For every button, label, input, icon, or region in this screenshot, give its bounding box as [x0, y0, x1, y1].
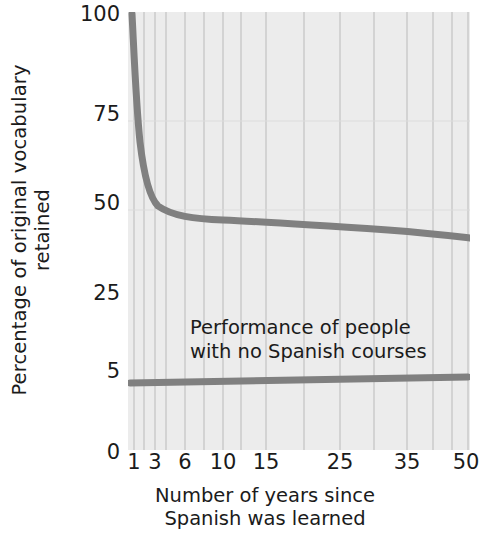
- y-tick-75: 75: [66, 104, 120, 125]
- y-tick-25: 25: [66, 283, 120, 304]
- plot-annotation-line1: Performance of people: [190, 316, 427, 340]
- x-tick-25: 25: [327, 452, 354, 473]
- x-tick-10: 10: [210, 452, 237, 473]
- x-tick-50: 50: [453, 452, 480, 473]
- y-tick-50: 50: [66, 193, 120, 214]
- y-axis-title-line1: Percentage of original vocabulary: [8, 64, 31, 395]
- y-tick-0: 0: [66, 442, 120, 463]
- y-axis-title-line2: retained: [31, 64, 54, 395]
- plot-annotation-line2: with no Spanish courses: [190, 340, 427, 364]
- x-tick-15: 15: [253, 452, 280, 473]
- y-axis-tick-labels: 100 75 50 25 5 0: [62, 0, 120, 549]
- plot-area: [128, 12, 470, 450]
- plot-annotation: Performance of people with no Spanish co…: [190, 316, 427, 364]
- y-tick-5: 5: [66, 361, 120, 382]
- x-axis-title-line1: Number of years since: [100, 484, 430, 507]
- plot-svg: [128, 12, 470, 450]
- chart-figure: Percentage of original vocabulary retain…: [0, 0, 486, 549]
- x-tick-35: 35: [394, 452, 421, 473]
- x-tick-3: 3: [148, 452, 161, 473]
- x-axis-tick-labels: 1 3 6 10 15 25 35 50: [128, 452, 470, 482]
- x-tick-6: 6: [178, 452, 191, 473]
- x-axis-title: Number of years since Spanish was learne…: [100, 484, 430, 531]
- x-tick-1: 1: [127, 452, 140, 473]
- x-axis-title-line2: Spanish was learned: [100, 507, 430, 530]
- y-tick-100: 100: [66, 4, 120, 25]
- y-axis-title: Percentage of original vocabulary retain…: [0, 0, 62, 460]
